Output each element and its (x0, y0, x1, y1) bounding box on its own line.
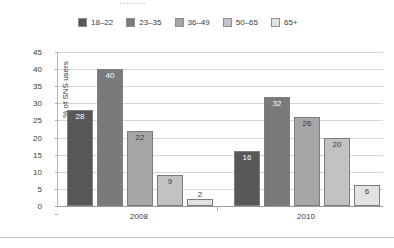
legend-swatch-icon (223, 18, 232, 27)
legend-label: 18–22 (91, 18, 113, 27)
y-axis-tick-label: 35 (12, 82, 42, 91)
legend-label: 23–35 (139, 18, 161, 27)
axis-baseline (58, 206, 383, 207)
legend-swatch-icon (175, 18, 184, 27)
bar-value-label: 16 (243, 153, 252, 163)
bar-value-label: 40 (106, 71, 115, 81)
x-axis-category-label: 2008 (109, 212, 169, 221)
x-axis-category-label: 2010 (276, 212, 336, 221)
legend-item[interactable]: 23–35 (126, 18, 161, 27)
legend-item[interactable]: 18–22 (78, 18, 113, 27)
bar[interactable]: 22 (127, 131, 153, 206)
bar[interactable]: 28 (67, 110, 93, 206)
gridline (58, 52, 383, 53)
legend-item[interactable]: 65+ (271, 18, 298, 27)
legend-item[interactable]: 36–49 (175, 18, 210, 27)
chart-page: • • • • • • • • 18–2223–3536–4950–6565+ … (0, 0, 394, 248)
bar-value-label: 9 (168, 177, 172, 187)
y-axis-tickmark (55, 172, 58, 173)
y-axis-tickmark (55, 155, 58, 156)
x-axis-group-separator (217, 206, 218, 211)
legend-swatch-icon (78, 18, 87, 27)
legend-label: 65+ (284, 18, 298, 27)
chart-legend: 18–2223–3536–4950–6565+ (78, 16, 378, 28)
bar[interactable]: 2 (187, 199, 213, 206)
bar-value-label: 2 (198, 190, 202, 200)
bar[interactable]: 26 (294, 117, 320, 206)
bar-value-label: 32 (273, 99, 282, 109)
y-axis-tickmark (55, 86, 58, 87)
bar[interactable]: 16 (234, 151, 260, 206)
bar[interactable]: 6 (354, 185, 380, 206)
y-axis-tick-label: 15 (12, 150, 42, 159)
y-axis-tickmark (55, 189, 58, 190)
y-axis-tick-label: 20 (12, 133, 42, 142)
y-axis-tick-label: 10 (12, 167, 42, 176)
y-axis-tickmark (55, 52, 58, 53)
y-axis-tickmark (55, 103, 58, 104)
legend-label: 50–65 (236, 18, 258, 27)
bar[interactable]: 32 (264, 97, 290, 207)
bottom-divider (0, 237, 394, 238)
plot-area: 051015202530354045% of SNS users28402292… (57, 52, 383, 206)
bar[interactable]: 9 (157, 175, 183, 206)
legend-item[interactable]: 50–65 (223, 18, 258, 27)
y-axis-tick-label: 30 (12, 99, 42, 108)
y-axis-tickmark (55, 138, 58, 139)
clipped-caption: • • • • • • • • (120, 0, 388, 7)
legend-swatch-icon (126, 18, 135, 27)
y-axis-tickmark (55, 69, 58, 70)
y-axis-tick-label: 25 (12, 116, 42, 125)
bar-value-label: 22 (136, 133, 145, 143)
bar-value-label: 20 (333, 140, 342, 150)
bar-value-label: 6 (365, 187, 369, 197)
legend-swatch-icon (271, 18, 280, 27)
legend-label: 36–49 (188, 18, 210, 27)
bar-value-label: 28 (76, 112, 85, 122)
y-axis-tickmark (55, 206, 58, 207)
y-axis-tickmark (55, 214, 58, 215)
y-axis-tickmark (55, 120, 58, 121)
bar[interactable]: 20 (324, 138, 350, 206)
y-axis-tick-label: 40 (12, 65, 42, 74)
y-axis-tick-label: 45 (12, 48, 42, 57)
bar[interactable]: 40 (97, 69, 123, 206)
bar-value-label: 26 (303, 119, 312, 129)
y-axis-tick-label: 0 (12, 202, 42, 211)
y-axis-tick-label: 5 (12, 184, 42, 193)
